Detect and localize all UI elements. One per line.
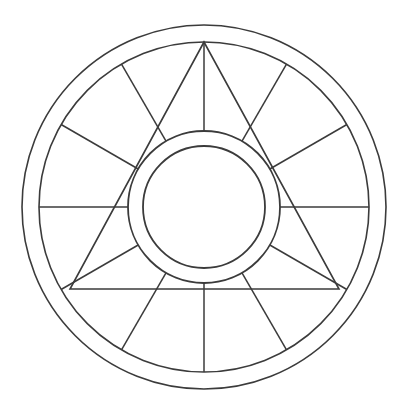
spoke-60deg (242, 64, 287, 141)
spoke-300deg (242, 273, 287, 350)
spoke-240deg (122, 273, 167, 350)
radial-spokes-group (39, 42, 369, 372)
wheel-mandala-svg (0, 0, 404, 414)
spoke-120deg (122, 64, 167, 141)
spoke-30deg (270, 125, 347, 170)
diagram-canvas (0, 0, 404, 414)
hub-outer-circle (128, 131, 280, 283)
spoke-150deg (61, 125, 138, 170)
hub-inner-circle (143, 146, 265, 268)
central-hub-group (128, 131, 280, 283)
